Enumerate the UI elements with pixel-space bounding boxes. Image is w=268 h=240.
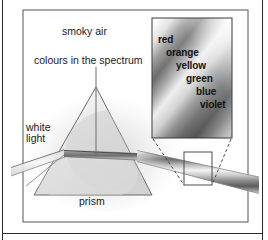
- prism-dispersion-figure: red orange yellow green blue violet smok…: [0, 0, 268, 240]
- label-prism: prism: [79, 196, 105, 207]
- label-white-light: white light: [26, 122, 51, 144]
- spectrum-name-violet: violet: [200, 99, 226, 110]
- label-smoky-air: smoky air: [62, 26, 107, 37]
- spectrum-name-orange: orange: [166, 47, 199, 58]
- spectrum-name-blue: blue: [196, 86, 216, 97]
- label-colours-in-the-spectrum: colours in the spectrum: [34, 55, 143, 66]
- label-white-light-line2: light: [26, 133, 51, 144]
- spectrum-name-red: red: [158, 34, 173, 45]
- diagram-canvas: [0, 0, 268, 240]
- spectrum-name-yellow: yellow: [176, 60, 206, 71]
- spectrum-name-green: green: [186, 73, 213, 84]
